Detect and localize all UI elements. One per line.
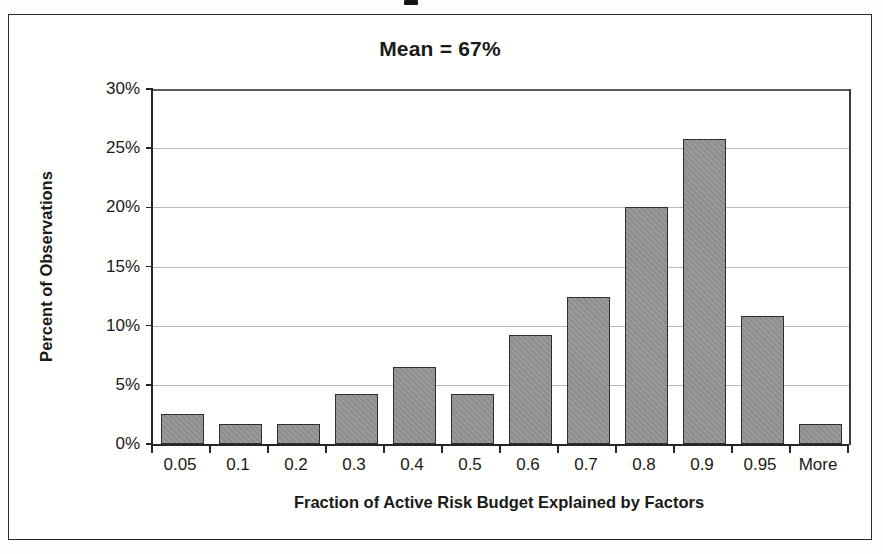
bar-0.1 — [219, 424, 262, 444]
x-axis-tick — [151, 446, 153, 453]
y-axis-label: 5% — [80, 375, 140, 395]
x-axis-label-0.05: 0.05 — [151, 455, 209, 475]
x-axis-label-0.8: 0.8 — [615, 455, 673, 475]
y-axis-tick — [146, 325, 153, 327]
x-axis-tick-layer — [151, 446, 847, 453]
bar-series — [153, 89, 849, 444]
bar-slot — [733, 89, 791, 444]
y-axis-tick — [146, 443, 153, 445]
plot-area: 0%5%10%15%20%25%30% — [151, 89, 849, 446]
bar-0.7 — [567, 297, 610, 444]
chart-frame: Mean = 67% 0%5%10%15%20%25%30% 0.050.10.… — [8, 14, 872, 540]
x-axis-label-0.2: 0.2 — [267, 455, 325, 475]
bar-0.4 — [393, 367, 436, 444]
bar-0.3 — [335, 394, 378, 444]
x-axis-tick — [325, 446, 327, 453]
x-axis-tick — [209, 446, 211, 453]
x-axis-tick — [847, 446, 849, 453]
x-axis-tick — [615, 446, 617, 453]
x-axis-label-More: More — [789, 455, 847, 475]
bar-slot — [385, 89, 443, 444]
y-axis-label: 25% — [80, 138, 140, 158]
x-axis-label-0.95: 0.95 — [731, 455, 789, 475]
x-axis-tick — [789, 446, 791, 453]
x-axis-tick — [499, 446, 501, 453]
x-axis-label-0.1: 0.1 — [209, 455, 267, 475]
y-axis-title: Percent of Observations — [37, 89, 59, 444]
bar-0.8 — [625, 207, 668, 444]
x-axis-label-0.5: 0.5 — [441, 455, 499, 475]
x-axis-label-0.7: 0.7 — [557, 455, 615, 475]
y-axis-label: 30% — [80, 79, 140, 99]
y-axis-tick — [146, 384, 153, 386]
x-axis-label-0.9: 0.9 — [673, 455, 731, 475]
y-axis-tick — [146, 88, 153, 90]
x-axis-tick — [383, 446, 385, 453]
y-axis-tick — [146, 147, 153, 149]
bar-slot — [211, 89, 269, 444]
x-axis-tick — [673, 446, 675, 453]
bar-0.5 — [451, 394, 494, 444]
bar-slot — [559, 89, 617, 444]
chart-title: Mean = 67% — [9, 37, 871, 61]
x-axis-label-0.4: 0.4 — [383, 455, 441, 475]
x-axis-tick — [267, 446, 269, 453]
y-axis-tick — [146, 207, 153, 209]
x-axis-title: Fraction of Active Risk Budget Explained… — [91, 493, 883, 512]
bar-0.6 — [509, 335, 552, 444]
x-axis-tick — [557, 446, 559, 453]
y-axis-label: 20% — [80, 197, 140, 217]
bar-slot — [327, 89, 385, 444]
bar-0.05 — [161, 414, 204, 444]
y-axis-tick — [146, 266, 153, 268]
x-axis-tick — [731, 446, 733, 453]
x-axis-tick — [441, 446, 443, 453]
bar-slot — [153, 89, 211, 444]
plot-right-edge — [849, 89, 851, 445]
y-axis-label: 0% — [80, 434, 140, 454]
plot-wrapper: 0%5%10%15%20%25%30% 0.050.10.20.30.40.50… — [151, 89, 857, 518]
bar-slot — [617, 89, 675, 444]
bar-0.2 — [277, 424, 320, 444]
bar-slot — [443, 89, 501, 444]
x-axis-label-0.3: 0.3 — [325, 455, 383, 475]
y-axis-label: 15% — [80, 257, 140, 277]
bar-slot — [791, 89, 849, 444]
bar-0.95 — [741, 316, 784, 444]
bar-slot — [501, 89, 559, 444]
x-axis-labels: 0.050.10.20.30.40.50.60.70.80.90.95More — [151, 455, 847, 475]
bar-slot — [675, 89, 733, 444]
bar-More — [799, 424, 842, 444]
scan-artifact — [404, 0, 418, 5]
x-axis-label-0.6: 0.6 — [499, 455, 557, 475]
y-axis-label: 10% — [80, 316, 140, 336]
bar-0.9 — [683, 139, 726, 444]
bar-slot — [269, 89, 327, 444]
